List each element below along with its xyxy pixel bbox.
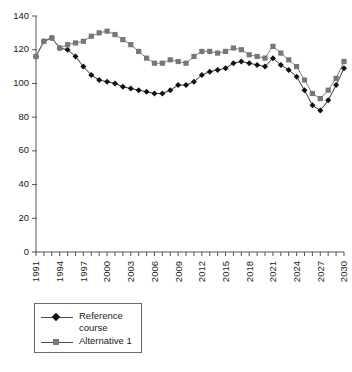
x-axis-tick-label: 1994 [54,261,65,282]
data-point-square [310,91,315,96]
data-point-square [262,56,267,61]
data-point-square [341,59,346,64]
data-point-diamond [309,102,315,108]
data-point-diamond [167,87,173,93]
data-point-diamond [175,82,181,88]
data-point-diamond [238,59,244,65]
x-axis-tick-label: 2030 [338,261,349,282]
data-point-square [278,50,283,55]
data-point-diamond [159,91,165,97]
legend-label-reference-course: Reference course [79,310,123,333]
data-point-square [41,39,46,44]
x-axis-tick-label: 2000 [101,261,112,282]
data-point-diamond [144,89,150,95]
data-point-diamond [96,77,102,83]
data-point-diamond [207,69,213,75]
data-point-square [247,52,252,57]
legend-marker-square-icon [41,336,73,348]
data-point-square [97,30,102,35]
data-point-square [286,57,291,62]
data-point-diamond [151,91,157,97]
y-axis-tick-label: 140 [13,10,29,21]
data-point-square [49,35,54,40]
data-point-diamond [128,85,134,91]
data-point-diamond [246,60,252,66]
data-point-square [207,49,212,54]
data-point-square [326,88,331,93]
y-axis-tick-label: 20 [18,212,29,223]
x-axis-tick-label: 2009 [173,261,184,282]
data-point-square [255,54,260,59]
legend-item-reference-course: Reference course [41,310,123,333]
legend-marker-diamond-icon [41,311,73,323]
data-point-square [128,42,133,47]
data-point-square [294,64,299,69]
y-axis-tick-label: 100 [13,77,29,88]
legend-item-alternative-1: Alternative 1 [41,335,132,348]
data-point-square [191,54,196,59]
data-point-diamond [120,84,126,90]
data-point-diamond [230,60,236,66]
data-point-square [120,37,125,42]
x-axis-tick-label: 2012 [196,261,207,282]
legend-label-alternative-1: Alternative 1 [79,335,132,347]
y-axis-tick-label: 0 [24,246,29,257]
y-axis-tick-label: 40 [18,178,29,189]
y-axis-tick-label: 120 [13,43,29,54]
data-point-diamond [254,62,260,68]
data-point-square [73,40,78,45]
x-axis-tick-labels: 1991199419972000200320062009201220152018… [30,261,349,282]
data-point-square [231,45,236,50]
x-axis-tick-label: 1997 [78,261,89,282]
y-axis: 020406080100120140 [13,10,37,257]
data-point-square [270,44,275,49]
data-point-square [89,34,94,39]
data-point-square [65,42,70,47]
chart-figure: 020406080100120140 199119941997200020032… [0,0,352,372]
x-axis [36,252,344,256]
data-point-square [33,54,38,59]
data-point-square [57,45,62,50]
data-series-group [33,29,347,114]
x-axis-tick-label: 2006 [149,261,160,282]
data-point-square [112,32,117,37]
data-point-square [215,50,220,55]
data-point-diamond [183,82,189,88]
data-point-square [136,49,141,54]
data-point-diamond [112,80,118,86]
data-point-square [176,59,181,64]
data-point-diamond [136,87,142,93]
data-point-square [199,49,204,54]
x-axis-tick-label: 2021 [267,261,278,282]
x-axis-tick-label: 2015 [220,261,231,282]
data-point-diamond [302,87,308,93]
data-point-square [152,61,157,66]
data-point-square [183,61,188,66]
data-point-square [223,49,228,54]
data-point-square [302,77,307,82]
x-axis-tick-label: 1991 [30,261,41,282]
data-point-diamond [333,82,339,88]
y-axis-tick-label: 60 [18,144,29,155]
y-axis-tick-label: 80 [18,111,29,122]
series-line-reference-course [36,38,344,110]
data-point-square [318,96,323,101]
data-point-square [81,39,86,44]
x-axis-tick-label: 2024 [291,261,302,282]
data-point-square [168,57,173,62]
x-axis-tick-label: 2018 [244,261,255,282]
data-point-square [104,29,109,34]
x-axis-tick-label: 2027 [315,261,326,282]
x-axis-tick-label: 2003 [125,261,136,282]
data-point-square [239,47,244,52]
chart-legend: Reference course Alternative 1 [34,303,142,353]
data-point-square [334,76,339,81]
data-point-square [160,61,165,66]
data-point-diamond [104,79,110,85]
data-point-diamond [223,65,229,71]
data-point-diamond [215,67,221,73]
data-point-square [144,56,149,61]
